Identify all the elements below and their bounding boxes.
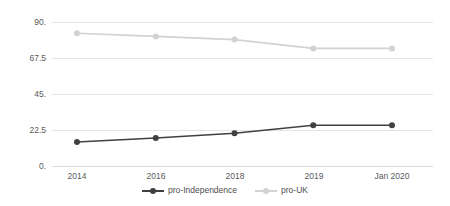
line-chart: 90. 67.5 45. 22.5 0. 2014 2016 2018 2019…	[0, 0, 450, 206]
data-point[interactable]	[153, 135, 159, 141]
data-point[interactable]	[74, 30, 80, 36]
legend-swatch-icon-pro-independence	[142, 186, 164, 195]
legend-label-pro-uk: pro-UK	[281, 186, 308, 195]
legend-item-pro-uk[interactable]: pro-UK	[255, 186, 308, 195]
data-point[interactable]	[310, 45, 316, 51]
series-pro-independence	[74, 122, 395, 145]
data-point[interactable]	[310, 122, 316, 128]
chart-legend: pro-Independence pro-UK	[0, 186, 450, 195]
data-point[interactable]	[232, 130, 238, 136]
data-point[interactable]	[74, 139, 80, 145]
data-point[interactable]	[153, 33, 159, 39]
series-layer	[0, 0, 450, 206]
legend-item-pro-independence[interactable]: pro-Independence	[142, 186, 237, 195]
data-point[interactable]	[389, 122, 395, 128]
legend-swatch-icon-pro-uk	[255, 186, 277, 195]
data-point[interactable]	[389, 45, 395, 51]
series-pro-uk	[74, 30, 395, 51]
data-point[interactable]	[232, 37, 238, 43]
legend-label-pro-independence: pro-Independence	[168, 186, 237, 195]
